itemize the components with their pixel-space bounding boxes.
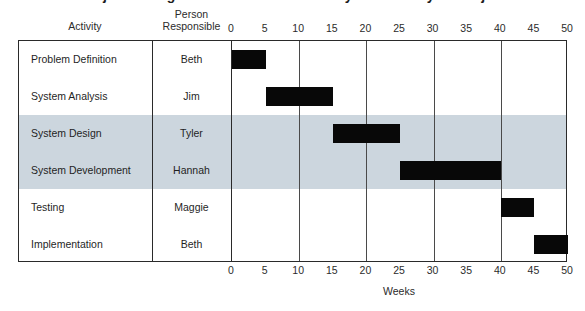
axis-tick-45: 45 [521,22,545,35]
axis-tick-20: 20 [353,264,377,277]
table-row[interactable]: TestingMaggie [19,189,566,226]
axis-tick-40: 40 [488,22,512,35]
table-row[interactable]: Problem DefinitionBeth [19,41,566,78]
row-person-label: Maggie [152,189,231,226]
axis-tick-0: 0 [219,264,243,277]
row-activity-label: Problem Definition [31,41,117,78]
axis-tick-25: 25 [387,264,411,277]
axis-tick-20: 20 [353,22,377,35]
axis-tick-5: 5 [253,22,277,35]
gantt-bar[interactable] [232,50,266,69]
gantt-bar[interactable] [400,161,501,180]
row-person-label: Beth [152,226,231,263]
axis-tick-25: 25 [387,22,411,35]
axis-title-weeks: Weeks [231,285,567,297]
row-person-label: Jim [152,78,231,115]
row-activity-label: Testing [31,189,64,226]
axis-tick-30: 30 [421,22,445,35]
row-activity-label: System Development [31,152,131,189]
axis-tick-50: 50 [555,264,579,277]
axis-tick-30: 30 [421,264,445,277]
table-row[interactable]: ImplementationBeth [19,226,566,263]
axis-scale-top: 05101520253035404550 [0,22,585,36]
row-person-label: Hannah [152,152,231,189]
table-row[interactable]: System DesignTyler [19,115,566,152]
axis-tick-15: 15 [320,22,344,35]
row-activity-label: Implementation [31,226,103,263]
table-row[interactable]: System AnalysisJim [19,78,566,115]
axis-tick-45: 45 [521,264,545,277]
axis-tick-15: 15 [320,264,344,277]
chart-title: Project Management Gantt Chart for a Sys… [0,0,585,4]
row-person-label: Tyler [152,115,231,152]
axis-tick-10: 10 [286,22,310,35]
gantt-bar[interactable] [501,198,535,217]
row-activity-label: System Design [31,115,102,152]
row-activity-label: System Analysis [31,78,107,115]
axis-tick-35: 35 [454,264,478,277]
gantt-chart-screenshot: Project Management Gantt Chart for a Sys… [0,0,585,311]
axis-tick-0: 0 [219,22,243,35]
axis-scale-bottom: 05101520253035404550 [0,264,585,278]
gantt-table: Problem DefinitionBethSystem AnalysisJim… [18,40,567,262]
row-person-label: Beth [152,41,231,78]
axis-tick-50: 50 [555,22,579,35]
column-header-person-line1: Person [152,9,231,21]
axis-tick-10: 10 [286,264,310,277]
table-row[interactable]: System DevelopmentHannah [19,152,566,189]
gantt-bar[interactable] [333,124,400,143]
axis-tick-40: 40 [488,264,512,277]
chart-title-clipped: Project Management Gantt Chart for a Sys… [0,0,585,8]
gantt-bar[interactable] [534,235,568,254]
axis-tick-35: 35 [454,22,478,35]
axis-tick-5: 5 [253,264,277,277]
gantt-bar[interactable] [266,87,333,106]
